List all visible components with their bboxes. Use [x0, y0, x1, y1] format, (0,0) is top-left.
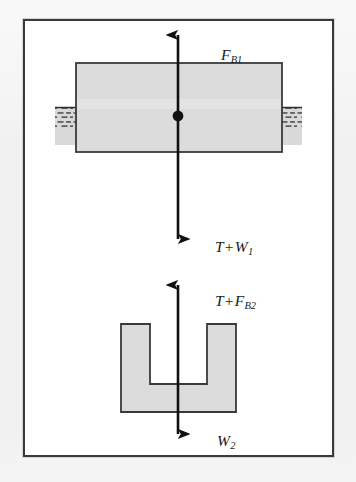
label-w2-symbol: W: [217, 432, 230, 449]
label-tw1-subscript: 1: [248, 246, 253, 257]
label-buoyant-force-top: FB1: [221, 47, 242, 63]
label-tfb2-operator: +: [224, 292, 235, 309]
label-w2-subscript: 2: [230, 440, 235, 451]
label-fb1-symbol: F: [221, 46, 231, 63]
center-of-mass-dot: [173, 111, 184, 122]
label-tw1-term-two: W: [235, 238, 248, 255]
label-tension-plus-weight-one: T+W1: [215, 239, 253, 255]
label-tfb2-term-two: F: [235, 292, 245, 309]
label-weight-two: W2: [217, 433, 235, 449]
free-body-diagram-canvas: [25, 21, 332, 455]
label-tfb2-term-one: T: [215, 292, 224, 309]
page-background: FB1 T+W1 T+FB2 W2: [0, 0, 356, 482]
label-tfb2-subscript: B2: [244, 300, 256, 311]
label-tw1-operator: +: [224, 238, 235, 255]
label-tension-plus-buoyant-two: T+FB2: [215, 293, 256, 309]
figure-frame: FB1 T+W1 T+FB2 W2: [23, 19, 334, 457]
label-fb1-subscript: B1: [231, 54, 243, 65]
label-tw1-term-one: T: [215, 238, 224, 255]
